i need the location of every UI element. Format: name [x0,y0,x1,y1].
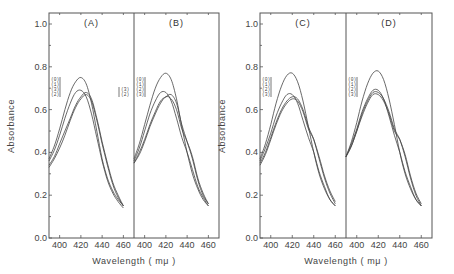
left-figure: 0.00.20.40.60.81.0 Absorbance Wavelength… [6,13,219,266]
legend: (0)(1)(3)(2) [51,77,60,97]
y-tick-label: 0.6 [245,105,258,115]
legend: (0)(1)(2)(3) [262,77,271,97]
panel-title: (D) [381,18,397,28]
legend: (0)(1)(2)(3) [136,77,145,97]
x-tick-label: 400 [52,240,67,250]
x-tick-label: 400 [137,240,152,250]
x-tick-label: 460 [414,240,429,250]
panel-c: (C)400420440460(0)(1)(2)(3) [260,13,343,250]
left-y-axis-title: Absorbance [6,99,16,153]
x-tick-label: 400 [263,240,278,250]
y-tick-label: 1.0 [245,19,258,29]
x-tick-label: 460 [328,240,343,250]
y-tick-label: 1.0 [34,19,47,29]
curve-2 [346,92,421,206]
legend-item: (2) [121,92,129,97]
x-tick-label: 420 [371,240,386,250]
y-tick-label: 0.4 [245,147,258,157]
panel-title: (B) [169,18,184,28]
panel-title: (C) [295,18,311,28]
curve-1 [134,91,208,205]
panel-d: (D)400420440460(0)(1)(2)(3) [346,13,429,250]
x-tick-label: 440 [95,240,110,250]
y-tick-label: 0.8 [245,62,258,72]
y-tick-label: 0.8 [34,62,47,72]
x-tick-label: 420 [285,240,300,250]
x-tick-label: 420 [158,240,173,250]
y-tick-label: 0.0 [245,233,258,243]
y-tick-label: 0.2 [245,190,258,200]
panel-a: (A)400420440460(0)(1)(3)(2) [49,13,131,250]
x-tick-label: 420 [73,240,88,250]
x-tick-label: 440 [180,240,195,250]
curve-1 [260,94,335,206]
right-y-axis-title: Absorbance [217,99,227,153]
y-tick-label: 0.2 [34,190,47,200]
x-tick-label: 440 [306,240,321,250]
legend-item: (3) [262,92,270,97]
y-tick-label: 0.0 [34,233,47,243]
figure: 0.00.20.40.60.81.0 Absorbance Wavelength… [0,0,454,274]
x-tick-label: 400 [349,240,364,250]
left-x-axis-title: Wavelength ( mμ ) [92,256,176,266]
legend-item: (2) [51,92,59,97]
y-tick-label: 0.4 [34,147,47,157]
x-tick-label: 460 [116,240,131,250]
x-tick-label: 440 [392,240,407,250]
y-tick-label: 0.6 [34,105,47,115]
legend-item: (3) [348,92,356,97]
panel-a-extra-legend: (3)(2) [119,87,129,97]
x-tick-label: 460 [201,240,216,250]
panel-title: (A) [84,18,99,28]
legend-item: (3) [136,92,144,97]
right-x-axis-title: Wavelength ( mμ ) [304,256,388,266]
legend: (0)(1)(2)(3) [348,77,357,97]
